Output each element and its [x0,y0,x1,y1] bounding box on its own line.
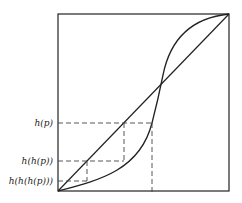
label-h-h-p: h(h(p)) [22,156,54,166]
label-h-h-h-p: h(h(h(p))) [9,176,54,186]
diagonal-line [58,14,229,191]
label-h-p: h(p) [34,118,53,128]
cobweb-lines [58,123,152,194]
iteration-diagram: h(p) h(h(p)) h(h(h(p))) [0,0,242,203]
